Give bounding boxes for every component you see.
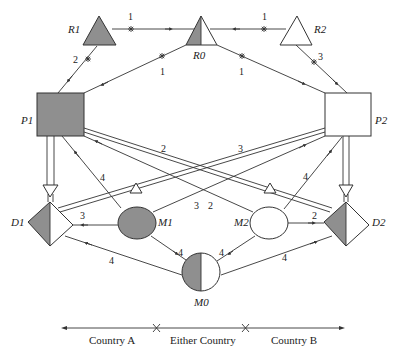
label-p2: P2 <box>374 114 388 126</box>
open-arrowhead-icon <box>43 185 58 197</box>
legend-country-a: Country A <box>89 334 135 346</box>
asterisk-icon <box>239 53 245 59</box>
edge-m2-p2 <box>284 137 342 209</box>
node-m1-ellipse[interactable] <box>118 207 156 239</box>
label-m2: M2 <box>233 216 249 228</box>
edge-label: 3 <box>80 210 85 221</box>
label-r2: R2 <box>313 23 327 35</box>
edge-label: 4 <box>282 252 287 263</box>
edges <box>58 29 347 275</box>
node-m2-ellipse[interactable] <box>250 207 288 239</box>
legend-left-arrow-icon <box>61 326 67 330</box>
edge-label: 4 <box>219 247 224 258</box>
edge-m1-p1 <box>62 136 121 208</box>
label-p1: P1 <box>20 114 33 126</box>
double-edge-p2-d1 <box>58 128 325 208</box>
legend-either-country: Either Country <box>170 334 236 346</box>
legend-right-arrow-icon <box>339 326 345 330</box>
edge-arrow <box>68 76 72 81</box>
asterisk-icon <box>85 56 91 62</box>
double-edge-p1-d2 <box>84 132 330 212</box>
asterisk-icon <box>159 53 165 59</box>
edge-label: 4 <box>100 172 105 183</box>
asterisk-icon <box>128 26 134 32</box>
edge-arrow <box>102 82 108 85</box>
asterisk-icon <box>261 26 267 32</box>
edge-label: 2 <box>312 210 317 221</box>
label-d2: D2 <box>371 216 386 228</box>
country-legend: Country A Either Country Country B <box>61 324 345 346</box>
label-m0: M0 <box>193 296 209 308</box>
edge-arrow <box>333 80 337 84</box>
edge-label: 4 <box>109 255 114 266</box>
node-d1-left-half <box>28 202 50 246</box>
label-r0: R0 <box>192 49 206 61</box>
edge-arrow <box>173 251 177 254</box>
edge-arrow <box>327 151 331 156</box>
label-m1: M1 <box>157 216 173 228</box>
edge-arrow <box>75 152 79 157</box>
edge-label: 3 <box>194 200 199 211</box>
edge-m0-d1 <box>65 236 182 275</box>
node-d1-diamond[interactable] <box>28 202 73 246</box>
node-r1-triangle[interactable] <box>83 16 116 45</box>
edge-label: 1 <box>239 66 244 77</box>
node-r0-triangle[interactable] <box>186 16 217 45</box>
edge-label: 3 <box>238 143 243 154</box>
asterisk-icon <box>311 59 317 65</box>
edge-r0-p1 <box>84 45 186 93</box>
label-r1: R1 <box>67 23 80 35</box>
edge-arrow <box>299 145 305 148</box>
legend-country-b: Country B <box>271 334 317 346</box>
edge-arrow <box>298 81 304 84</box>
edge-r0-p2 <box>217 45 325 93</box>
double-edge-p1-d2 <box>84 128 332 208</box>
edge-label: 2 <box>73 54 78 65</box>
edge-label: 1 <box>262 11 267 22</box>
label-d1: D1 <box>10 216 24 228</box>
node-p2-square[interactable] <box>325 93 371 136</box>
node-d2-left-half <box>324 202 346 246</box>
edge-label: 1 <box>128 11 133 22</box>
node-d2-diamond[interactable] <box>324 202 369 246</box>
flow-triangle-icon <box>264 183 276 193</box>
edge-label: 1 <box>160 66 165 77</box>
edge-label: 2 <box>208 200 213 211</box>
edge-arrow <box>96 141 102 144</box>
node-r2-triangle[interactable] <box>280 16 312 45</box>
edge-label: 3 <box>318 51 323 62</box>
node-p1-square[interactable] <box>37 93 84 136</box>
edge-label: 2 <box>161 143 166 154</box>
edge-label: 4 <box>303 171 308 182</box>
supply-chain-diagram: R1 R0 R2 P1 P2 D1 D2 M1 M2 M0 1 1 2 1 1 … <box>0 0 399 356</box>
node-m0-circle[interactable] <box>182 253 220 291</box>
edge-arrow <box>86 243 92 245</box>
edge-label: 4 <box>178 247 183 258</box>
open-arrowhead-icon <box>339 185 353 197</box>
